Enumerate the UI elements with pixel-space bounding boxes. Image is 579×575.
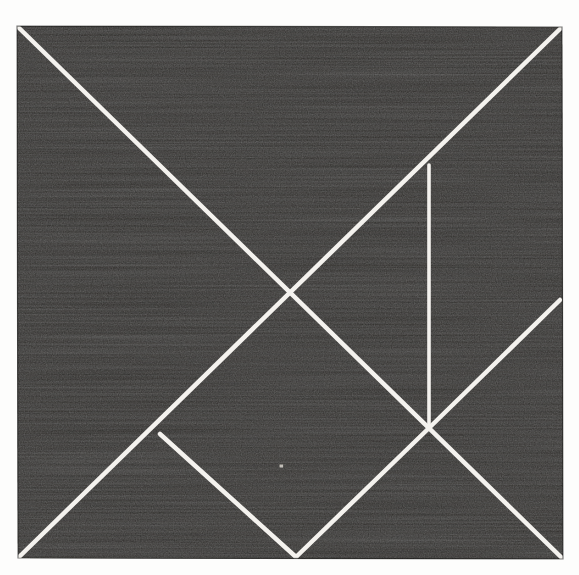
scan-artifacts [280,465,284,468]
scan-speck-icon [280,465,284,468]
tangram-figure [0,0,579,575]
scanned-figure-page [0,0,579,575]
